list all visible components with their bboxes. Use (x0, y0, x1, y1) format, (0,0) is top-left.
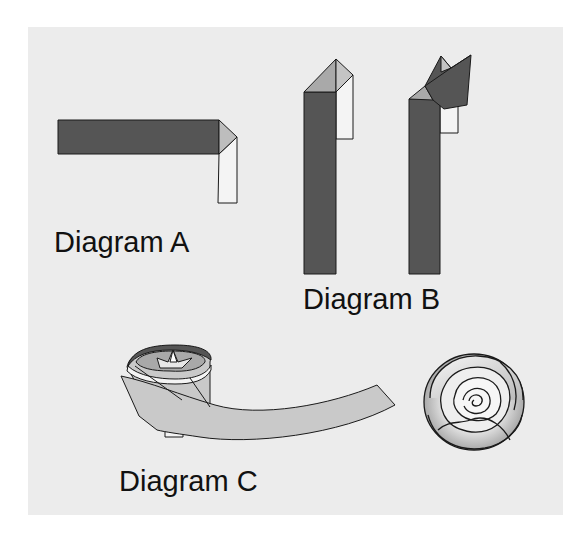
diagram-b-left-fold-front (304, 59, 336, 92)
diagram-b-right-back-strip (440, 105, 458, 133)
diagram-b-right-dark-column (409, 99, 440, 274)
diagram-c-rose-illustration (424, 354, 524, 450)
diagram-b-label: Diagram B (303, 285, 440, 314)
diagram-c-label: Diagram C (119, 467, 258, 496)
diagram-a-label: Diagram A (54, 228, 189, 257)
diagram-b-left-dark-column (304, 92, 336, 274)
diagram-illustrations (0, 0, 585, 538)
diagram-a-dark-strip (58, 120, 219, 154)
diagram-a-illustration (58, 120, 237, 203)
diagram-c-roll-illustration (121, 345, 395, 440)
diagram-b-right-illustration (409, 55, 471, 274)
diagram-b-left-illustration (304, 59, 353, 274)
